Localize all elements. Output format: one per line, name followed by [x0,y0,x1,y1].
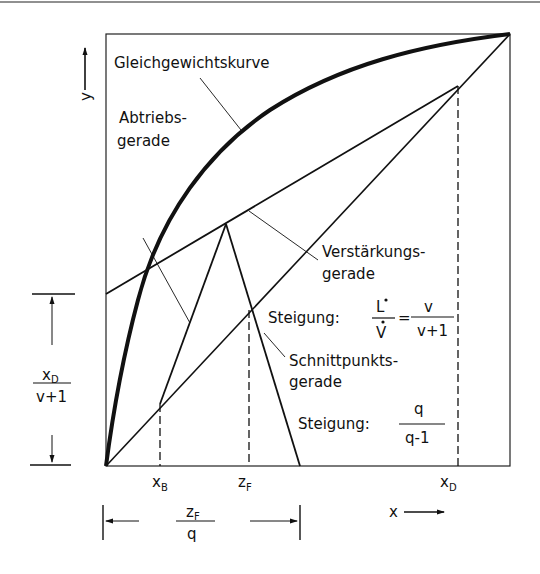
leader-q-line [264,333,285,357]
tick-xD: xD [440,473,457,493]
tick-xB: xB [152,473,168,493]
dim-bottom-num: zF [186,503,200,522]
x-axis-label: x [389,503,398,521]
y-axis-label: y [77,92,95,101]
slope-q-num: q [414,400,424,418]
label-slope-q: Steigung: [298,415,370,433]
label-rectifying-line-2: gerade [322,265,375,283]
slope-rect-num1: L [376,298,385,316]
q-line [226,224,300,466]
slope-rect-num2: v [424,298,433,316]
stripping-line [160,224,226,404]
leader-stripping [143,238,190,323]
slope-q-den: q-1 [405,429,429,447]
dim-bottom-den: q [187,525,197,543]
leader-rectifying [249,211,318,260]
label-rectifying-line-1: Verstärkungs- [322,243,426,261]
slope-rect-den1: V [376,324,387,342]
dim-left-den: v+1 [36,388,67,406]
label-q-line-1: Schnittpunkts- [289,352,398,370]
label-slope-rectifying: Steigung: [268,309,340,327]
dot-L [384,298,387,301]
leader-equilibrium [200,78,241,130]
slope-rect-eq: = [398,309,411,327]
slope-rect-den2: v+1 [417,322,448,340]
dim-left-num: xD [42,366,59,385]
label-stripping-line-1: Abtriebs- [119,109,187,127]
label-q-line-2: gerade [289,373,342,391]
label-equilibrium-curve: Gleichgewichtskurve [114,54,270,72]
diagonal-line [106,34,510,466]
tick-zF: zF [238,473,252,493]
mccabe-thiele-diagram: y x Gleichgewichtskurve Abtriebs- gerade… [0,0,540,574]
label-stripping-line-2: gerade [117,132,170,150]
